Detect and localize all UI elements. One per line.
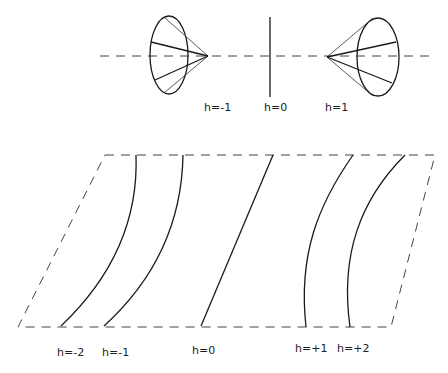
curve-h-neg1 bbox=[104, 155, 183, 326]
label-h-0: h=0 bbox=[192, 344, 215, 357]
curve-h-0 bbox=[201, 155, 273, 326]
label-h-neg1: h=-1 bbox=[102, 346, 129, 359]
left-cone bbox=[150, 16, 208, 94]
curve-h-pos2 bbox=[347, 155, 405, 327]
diagram-canvas: h=-1 h=0 h=1 h=-2 h=-1 h=0 h=+1 h=+2 bbox=[0, 0, 448, 373]
right-cone bbox=[327, 18, 399, 96]
label-h-0-top: h=0 bbox=[264, 101, 287, 114]
label-h-pos2: h=+2 bbox=[337, 342, 369, 355]
curve-h-neg2 bbox=[61, 155, 136, 326]
label-h-neg1-top: h=-1 bbox=[204, 101, 231, 114]
label-h-pos1: h=+1 bbox=[295, 342, 327, 355]
label-h-neg2: h=-2 bbox=[57, 346, 84, 359]
parallelogram-boundary bbox=[18, 155, 435, 327]
label-h-pos1-top: h=1 bbox=[325, 101, 348, 114]
curve-h-pos1 bbox=[304, 155, 353, 327]
